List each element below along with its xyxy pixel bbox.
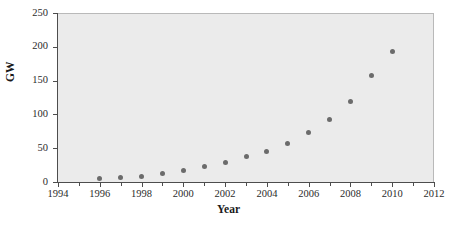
y-tick-mark bbox=[53, 81, 57, 82]
y-tick-mark bbox=[53, 148, 57, 149]
x-tick-mark bbox=[225, 183, 226, 187]
x-minor-tick-mark bbox=[413, 183, 414, 186]
x-tick-mark bbox=[434, 183, 435, 187]
y-tick-mark bbox=[53, 47, 57, 48]
data-point bbox=[285, 141, 290, 146]
x-tick-mark bbox=[100, 183, 101, 187]
x-tick-label: 2002 bbox=[205, 189, 245, 200]
x-tick-label: 2004 bbox=[247, 189, 287, 200]
x-minor-tick-mark bbox=[121, 183, 122, 186]
data-point bbox=[369, 73, 374, 78]
y-axis-line bbox=[57, 13, 58, 183]
data-point bbox=[264, 149, 269, 154]
x-tick-mark bbox=[183, 183, 184, 187]
x-minor-tick-mark bbox=[288, 183, 289, 186]
data-point bbox=[223, 160, 228, 165]
data-point bbox=[160, 171, 165, 176]
x-minor-tick-mark bbox=[162, 183, 163, 186]
x-tick-mark bbox=[392, 183, 393, 187]
x-tick-label: 2012 bbox=[414, 189, 454, 200]
x-minor-tick-mark bbox=[204, 183, 205, 186]
y-tick-label: 50 bbox=[0, 143, 48, 154]
x-minor-tick-mark bbox=[79, 183, 80, 186]
data-point bbox=[97, 176, 102, 181]
x-minor-tick-mark bbox=[330, 183, 331, 186]
y-tick-mark bbox=[53, 13, 57, 14]
x-tick-label: 2008 bbox=[330, 189, 370, 200]
data-point bbox=[348, 99, 353, 104]
data-point bbox=[118, 175, 123, 180]
y-tick-mark bbox=[53, 182, 57, 183]
data-point bbox=[202, 164, 207, 169]
x-tick-mark bbox=[350, 183, 351, 187]
y-axis-label: GW bbox=[4, 62, 16, 82]
x-tick-label: 2006 bbox=[289, 189, 329, 200]
data-point bbox=[390, 49, 395, 54]
x-axis-label: Year bbox=[0, 203, 457, 215]
y-tick-label: 100 bbox=[0, 109, 48, 120]
data-point bbox=[306, 130, 311, 135]
x-tick-mark bbox=[58, 183, 59, 187]
x-minor-tick-mark bbox=[246, 183, 247, 186]
x-tick-label: 1998 bbox=[122, 189, 162, 200]
x-tick-label: 1996 bbox=[80, 189, 120, 200]
x-tick-label: 2000 bbox=[163, 189, 203, 200]
data-point bbox=[327, 117, 332, 122]
y-tick-mark bbox=[53, 114, 57, 115]
x-tick-mark bbox=[309, 183, 310, 187]
x-tick-label: 2010 bbox=[372, 189, 412, 200]
x-minor-tick-mark bbox=[371, 183, 372, 186]
x-tick-mark bbox=[267, 183, 268, 187]
plot-data-layer bbox=[58, 14, 433, 182]
data-point bbox=[244, 154, 249, 159]
chart-figure: 050100150200250 199419961998200020022004… bbox=[0, 0, 457, 230]
x-tick-mark bbox=[142, 183, 143, 187]
x-tick-label: 1994 bbox=[38, 189, 78, 200]
y-tick-label: 200 bbox=[0, 41, 48, 52]
plot-area bbox=[58, 13, 434, 182]
y-tick-label: 0 bbox=[0, 177, 48, 188]
data-point bbox=[181, 168, 186, 173]
data-point bbox=[139, 174, 144, 179]
y-tick-label: 250 bbox=[0, 8, 48, 19]
